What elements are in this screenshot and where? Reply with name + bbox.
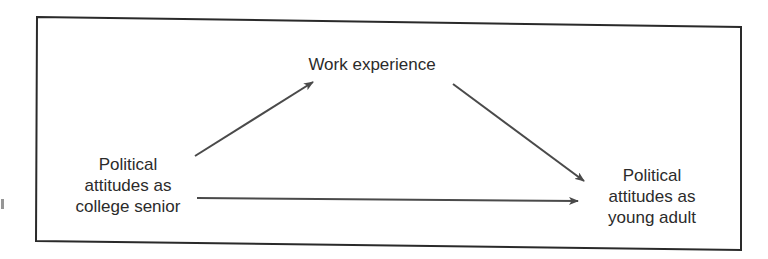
node-political-attitudes-college-senior: Political attitudes as college senior <box>58 154 198 217</box>
diagram-canvas: Work experience Political attitudes as c… <box>0 0 768 259</box>
node-label-line: Political <box>58 154 198 175</box>
node-label-line: young adult <box>585 207 719 228</box>
node-label-line: attitudes as <box>585 186 719 207</box>
node-label-line: Political <box>585 165 719 186</box>
node-work-experience: Work experience <box>282 54 462 75</box>
arrow-senior-to-work <box>195 82 313 156</box>
node-label-line: Work experience <box>282 54 462 75</box>
arrow-senior-to-adult <box>197 198 578 201</box>
node-political-attitudes-young-adult: Political attitudes as young adult <box>585 165 719 228</box>
arrow-work-to-adult <box>453 84 584 181</box>
node-label-line: college senior <box>58 196 198 217</box>
node-label-line: attitudes as <box>58 175 198 196</box>
